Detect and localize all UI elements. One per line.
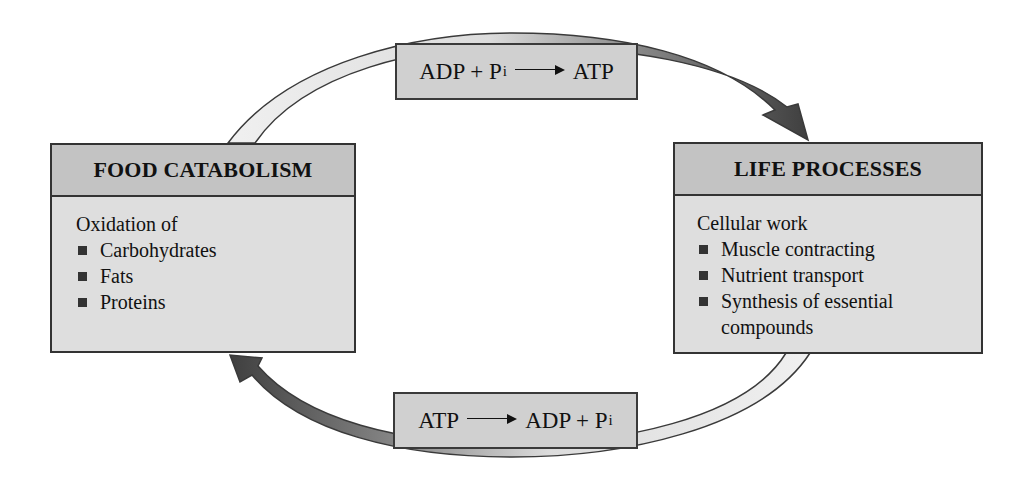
panel-food-catabolism: FOOD CATABOLISM Oxidation of Carbohydrat… bbox=[50, 143, 356, 353]
product-text: ADP + P bbox=[525, 408, 607, 434]
square-bullet-icon bbox=[699, 245, 708, 254]
square-bullet-icon bbox=[78, 298, 87, 307]
reactant-text: ADP + P bbox=[419, 59, 501, 85]
panel-title: LIFE PROCESSES bbox=[675, 144, 981, 196]
list-item: Fats bbox=[76, 263, 354, 289]
panel-life-processes: LIFE PROCESSES Cellular work Muscle cont… bbox=[673, 142, 983, 354]
panel-intro: Cellular work bbox=[697, 210, 981, 236]
list-item: Proteins bbox=[76, 289, 354, 315]
reaction-box-atp-hydrolysis: ATP ADP + Pi bbox=[393, 392, 638, 449]
square-bullet-icon bbox=[78, 272, 87, 281]
subscript-i: i bbox=[503, 63, 507, 80]
square-bullet-icon bbox=[699, 297, 708, 306]
list-item-label: Nutrient transport bbox=[721, 262, 864, 288]
list-item-label: Proteins bbox=[100, 289, 166, 315]
list-item-label: Carbohydrates bbox=[100, 237, 217, 263]
list-item: Nutrient transport bbox=[697, 262, 981, 288]
atp-cycle-diagram: ADP + Pi ATP ATP ADP + Pi FOOD CATABOLIS… bbox=[0, 0, 1026, 482]
list-item-label: Fats bbox=[100, 263, 133, 289]
reaction-arrow-icon bbox=[467, 414, 517, 424]
panel-body: Oxidation of Carbohydrates Fats Proteins bbox=[52, 197, 354, 315]
list-item: Carbohydrates bbox=[76, 237, 354, 263]
list-item-label: Muscle contracting bbox=[721, 236, 875, 262]
reaction-arrow-icon bbox=[515, 65, 565, 75]
panel-body: Cellular work Muscle contracting Nutrien… bbox=[675, 196, 981, 340]
panel-intro: Oxidation of bbox=[76, 211, 354, 237]
list-item-label: Synthesis of essential compounds bbox=[721, 288, 951, 340]
reaction-box-atp-synthesis: ADP + Pi ATP bbox=[395, 43, 638, 100]
subscript-i: i bbox=[609, 412, 613, 429]
product-text: ATP bbox=[573, 59, 614, 85]
reactant-text: ATP bbox=[418, 408, 459, 434]
list-item: Synthesis of essential compounds bbox=[697, 288, 981, 340]
square-bullet-icon bbox=[78, 246, 87, 255]
square-bullet-icon bbox=[699, 271, 708, 280]
list-item: Muscle contracting bbox=[697, 236, 981, 262]
panel-title: FOOD CATABOLISM bbox=[52, 145, 354, 197]
